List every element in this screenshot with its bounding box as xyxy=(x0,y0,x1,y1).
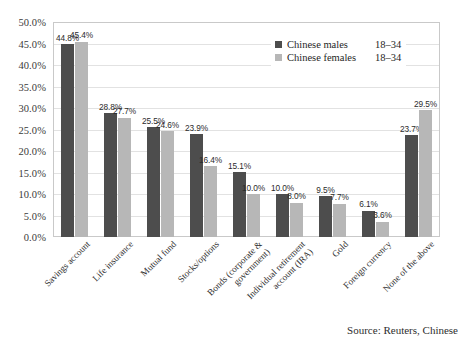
legend-item: Chinese females18–34 xyxy=(275,51,401,63)
bar-male xyxy=(190,134,204,237)
y-axis-tick-label: 10.0% xyxy=(18,189,46,200)
bar-female xyxy=(75,42,89,237)
legend-label: Chinese males18–34 xyxy=(287,39,401,50)
bar-value-label: 8.0% xyxy=(287,191,306,201)
bar-group: 23.9%16.4% xyxy=(182,22,225,237)
bar-value-label: 27.7% xyxy=(113,106,136,116)
bar-male xyxy=(405,135,419,237)
bar-male xyxy=(61,44,75,237)
y-axis: 50.0%45.0%40.0%35.0%30.0%25.0%20.0%15.0%… xyxy=(0,22,50,237)
bar-value-label: 23.9% xyxy=(185,123,208,133)
legend-age-range: 18–34 xyxy=(375,39,401,50)
bar-value-label: 7.7% xyxy=(330,192,349,202)
bar-value-label: 3.6% xyxy=(373,210,392,220)
bar-female xyxy=(376,222,390,237)
legend-age-range: 18–34 xyxy=(375,52,401,63)
bar-value-label: 6.1% xyxy=(359,199,378,209)
legend-label: Chinese females18–34 xyxy=(287,52,401,63)
y-axis-tick-label: 15.0% xyxy=(18,167,46,178)
y-axis-tick-label: 30.0% xyxy=(18,103,46,114)
y-axis-tick-label: 20.0% xyxy=(18,146,46,157)
bar-value-label: 15.1% xyxy=(228,161,251,171)
bar-group: 15.1%10.0% xyxy=(225,22,268,237)
bar-female xyxy=(419,110,433,237)
x-axis: Savings accountLife insuranceMutual fund… xyxy=(53,239,440,333)
bar-female xyxy=(118,118,132,237)
y-axis-tick-label: 35.0% xyxy=(18,81,46,92)
bar-male xyxy=(147,127,161,237)
y-axis-tick-label: 50.0% xyxy=(18,17,46,28)
bar-female xyxy=(204,166,218,237)
bar-female xyxy=(161,131,175,237)
chart-legend: Chinese males18–34Chinese females18–34 xyxy=(271,34,406,67)
y-axis-tick-label: 0.0% xyxy=(24,232,46,243)
y-axis-tick-label: 45.0% xyxy=(18,38,46,49)
bar-value-label: 10.0% xyxy=(242,183,265,193)
bar-female xyxy=(247,194,261,237)
bar-group: 44.8%45.4% xyxy=(53,22,96,237)
legend-item: Chinese males18–34 xyxy=(275,38,401,50)
bar-female xyxy=(333,204,347,237)
bar-male xyxy=(104,113,118,237)
legend-swatch-female-icon xyxy=(275,54,282,61)
bar-value-label: 29.5% xyxy=(414,99,437,109)
legend-swatch-male-icon xyxy=(275,41,282,48)
y-axis-tick-label: 25.0% xyxy=(18,124,46,135)
y-axis-tick-label: 5.0% xyxy=(24,210,46,221)
bar-value-label: 24.6% xyxy=(156,120,179,130)
bar-group: 28.8%27.7% xyxy=(96,22,139,237)
bar-value-label: 16.4% xyxy=(199,155,222,165)
legend-series-name: Chinese females xyxy=(287,52,375,63)
y-axis-tick-label: 40.0% xyxy=(18,60,46,71)
source-caption: Source: Reuters, Chinese xyxy=(0,324,458,337)
bar-value-label: 45.4% xyxy=(70,30,93,40)
bar-group: 25.5%24.6% xyxy=(139,22,182,237)
legend-series-name: Chinese males xyxy=(287,39,375,50)
bar-female xyxy=(290,203,304,237)
